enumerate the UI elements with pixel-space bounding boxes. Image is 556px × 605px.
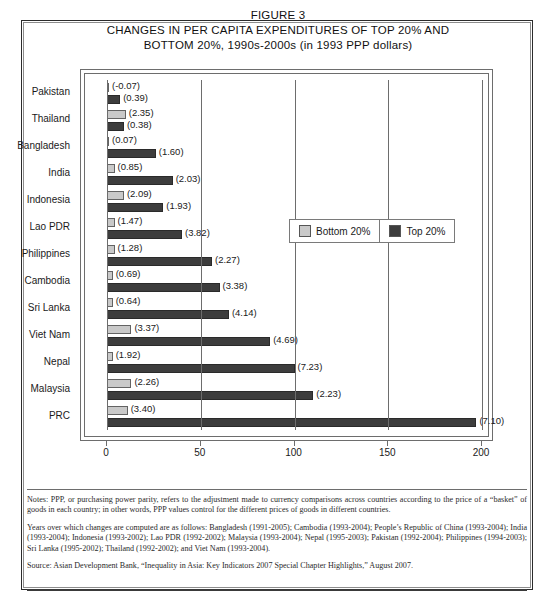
bar-label-bottom20-malaysia: (2.26): [134, 377, 159, 387]
x-tick-150: [387, 441, 388, 446]
bar-bottom20-prc: [107, 406, 128, 415]
bar-label-top20-lao-pdr: (3.82): [185, 228, 210, 238]
legend-entry-bottom20: Bottom 20%: [290, 220, 379, 242]
x-tick-0: [106, 441, 107, 446]
x-tick-label-200: 200: [473, 447, 490, 458]
y-axis-label-indonesia: Indonesia: [27, 194, 70, 205]
notes-paragraph-source: Source: Asian Development Bank, “Inequal…: [27, 561, 527, 571]
y-axis-label-malaysia: Malaysia: [31, 383, 70, 394]
bar-label-top20-philippines: (2.27): [215, 255, 240, 265]
notes-paragraph-definition: Notes: PPP, or purchasing power parity, …: [27, 495, 527, 516]
notes-bottom-rule: [27, 589, 527, 591]
notes-top-rule: [27, 489, 527, 490]
bar-top20-thailand: [107, 122, 124, 131]
y-axis-label-philippines: Philippines: [22, 248, 70, 259]
figure-notes: Notes: PPP, or purchasing power parity, …: [27, 489, 527, 571]
y-axis-label-bangladesh: Bangladesh: [17, 140, 70, 151]
x-tick-label-0: 0: [103, 447, 109, 458]
chart-plot-frame: (-0.07)(0.39)(2.35)(0.38)(0.07)(1.60)(0.…: [80, 69, 493, 441]
bar-bottom20-viet-nam: [107, 325, 131, 334]
y-axis-label-prc: PRC: [49, 410, 70, 421]
gridline-150: [388, 80, 389, 430]
y-axis-label-sri-lanka: Sri Lanka: [28, 302, 70, 313]
title-line-1: FIGURE 3: [0, 8, 556, 23]
bar-top20-bangladesh: [107, 149, 156, 158]
y-axis-label-cambodia: Cambodia: [24, 275, 70, 286]
bar-top20-sri-lanka: [107, 310, 229, 319]
figure-page: FIGURE 3 CHANGES IN PER CAPITA EXPENDITU…: [0, 0, 556, 605]
y-axis-label-nepal: Nepal: [44, 356, 70, 367]
bar-bottom20-philippines: [107, 245, 115, 254]
bar-label-bottom20-cambodia: (0.69): [116, 269, 141, 279]
gridline-100: [295, 80, 296, 430]
x-tick-label-50: 50: [194, 447, 205, 458]
bar-label-top20-bangladesh: (1.60): [159, 147, 184, 157]
legend-label-bottom20: Bottom 20%: [316, 226, 370, 237]
x-tick-label-150: 150: [379, 447, 396, 458]
legend-entry-top20: Top 20%: [379, 220, 454, 242]
bar-label-top20-indonesia: (1.93): [166, 201, 191, 211]
title-line-2: CHANGES IN PER CAPITA EXPENDITURES OF TO…: [0, 23, 556, 38]
bar-bottom20-lao-pdr: [107, 218, 115, 227]
bar-top20-pakistan: [107, 95, 120, 104]
bar-label-top20-pakistan: (0.39): [123, 93, 148, 103]
chart-plot-area: (-0.07)(0.39)(2.35)(0.38)(0.07)(1.60)(0.…: [107, 80, 482, 430]
bar-top20-viet-nam: [107, 337, 270, 346]
y-axis-label-india: India: [48, 167, 70, 178]
legend-label-top20: Top 20%: [406, 226, 445, 237]
bar-label-top20-cambodia: (3.38): [223, 281, 248, 291]
y-axis-label-viet-nam: Viet Nam: [29, 329, 70, 340]
x-tick-200: [481, 441, 482, 446]
bar-label-bottom20-sri-lanka: (0.64): [116, 296, 141, 306]
bar-label-bottom20-thailand: (2.35): [129, 108, 154, 118]
bar-top20-philippines: [107, 257, 212, 266]
gridline-0: [107, 80, 108, 430]
x-tick-label-100: 100: [285, 447, 302, 458]
y-axis-category-labels: PakistanThailandBangladeshIndiaIndonesia…: [0, 69, 76, 441]
bar-label-bottom20-pakistan: (-0.07): [112, 81, 140, 91]
y-axis-label-thailand: Thailand: [32, 113, 70, 124]
chart-legend: Bottom 20% Top 20%: [289, 219, 455, 243]
x-tick-50: [200, 441, 201, 446]
title-line-3: BOTTOM 20%, 1990s-2000s (in 1993 PPP dol…: [0, 38, 556, 53]
gridline-50: [201, 80, 202, 430]
notes-paragraph-years: Years over which changes are computed ar…: [27, 523, 527, 554]
bar-top20-cambodia: [107, 283, 220, 292]
bar-label-top20-nepal: (7.23): [298, 362, 323, 372]
bar-top20-prc: [107, 418, 476, 427]
bar-top20-malaysia: [107, 391, 313, 400]
bar-label-bottom20-lao-pdr: (1.47): [118, 216, 143, 226]
bar-label-bottom20-nepal: (1.92): [116, 350, 141, 360]
bar-label-bottom20-bangladesh: (0.07): [112, 135, 137, 145]
x-tick-100: [294, 441, 295, 446]
x-axis: 050100150200: [80, 441, 493, 467]
bar-label-top20-malaysia: (2.23): [316, 389, 341, 399]
y-axis-label-pakistan: Pakistan: [32, 86, 70, 97]
bar-label-bottom20-viet-nam: (3.37): [134, 323, 159, 333]
bar-top20-lao-pdr: [107, 230, 182, 239]
bar-label-top20-thailand: (0.38): [127, 120, 152, 130]
gridline-200: [482, 80, 483, 430]
bar-label-top20-sri-lanka: (4.14): [232, 308, 257, 318]
bar-top20-india: [107, 176, 173, 185]
bar-bottom20-malaysia: [107, 379, 131, 388]
bar-label-bottom20-prc: (3.40): [131, 404, 156, 414]
bar-label-top20-india: (2.03): [176, 174, 201, 184]
y-axis-label-lao-pdr: Lao PDR: [29, 221, 70, 232]
bar-label-bottom20-india: (0.85): [118, 162, 143, 172]
bar-label-bottom20-philippines: (1.28): [118, 243, 143, 253]
bar-top20-indonesia: [107, 203, 163, 212]
figure-title: FIGURE 3 CHANGES IN PER CAPITA EXPENDITU…: [0, 8, 556, 53]
bar-label-bottom20-indonesia: (2.09): [127, 189, 152, 199]
bar-bottom20-thailand: [107, 110, 126, 119]
legend-swatch-bottom20-icon: [299, 225, 311, 237]
chart-plot-inner-frame: (-0.07)(0.39)(2.35)(0.38)(0.07)(1.60)(0.…: [84, 73, 489, 437]
bar-label-top20-prc: (7.10): [479, 416, 504, 426]
legend-swatch-top20-icon: [389, 225, 401, 237]
bar-bottom20-indonesia: [107, 191, 124, 200]
bar-bottom20-india: [107, 164, 115, 173]
